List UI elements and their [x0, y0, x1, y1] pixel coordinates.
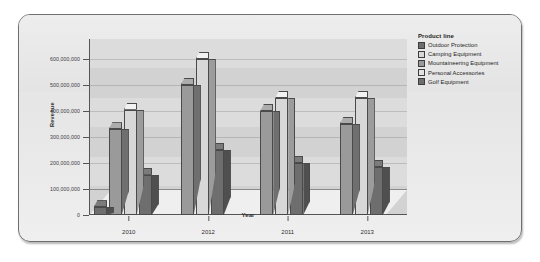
y-axis-tick — [83, 85, 89, 86]
legend-item[interactable]: Personal Accessories — [418, 69, 522, 76]
x-axis-category-label: 2010 — [122, 229, 135, 235]
chart-frame: 0100,000,000200,000,000300,000,000400,00… — [18, 14, 522, 242]
legend-item[interactable]: Outdoor Protection — [418, 42, 522, 49]
plot-area: 0100,000,000200,000,000300,000,000400,00… — [89, 39, 407, 215]
x-axis-category: 2010 — [122, 229, 135, 235]
bar[interactable] — [260, 111, 273, 215]
bar-top-face — [124, 103, 137, 110]
bar-group — [94, 39, 152, 215]
legend-swatch-icon — [418, 60, 425, 67]
x-axis-category: 2013 — [361, 229, 374, 235]
bar-front-face — [94, 207, 107, 215]
legend-swatch-icon — [418, 42, 425, 49]
bar-top-face — [275, 91, 288, 98]
bar-top-face — [109, 122, 122, 129]
y-axis-tick-label: 100,000,000 — [50, 186, 80, 192]
bar[interactable] — [94, 207, 107, 215]
legend: Product line Outdoor ProtectionCamping E… — [418, 33, 522, 87]
y-axis-tick — [83, 163, 89, 164]
y-axis-tick-label: 200,000,000 — [50, 160, 80, 166]
y-axis-title: Revenue — [49, 102, 55, 127]
x-axis-category-label: 2011 — [281, 229, 294, 235]
y-axis-tick — [83, 59, 89, 60]
y-axis-tick-label: 500,000,000 — [50, 82, 80, 88]
chart-screenshot: 0100,000,000200,000,000300,000,000400,00… — [0, 0, 540, 262]
bar-front-face — [340, 124, 353, 215]
bar-top-face — [355, 91, 368, 98]
bar-top-face — [181, 78, 194, 85]
bar-top-face — [94, 200, 107, 207]
x-axis-category: 2011 — [281, 229, 294, 235]
legend-title: Product line — [418, 33, 522, 39]
legend-item[interactable]: Mountaineering Equipment — [418, 60, 522, 67]
bar[interactable] — [181, 85, 194, 215]
y-axis-tick-label: 600,000,000 — [50, 56, 80, 62]
legend-item-label: Outdoor Protection — [428, 42, 478, 48]
bar-front-face — [181, 85, 194, 215]
bar-group — [340, 39, 383, 215]
legend-swatch-icon — [418, 78, 425, 85]
y-axis-tick-label: 0 — [77, 212, 80, 218]
x-axis-category-label: 2013 — [361, 229, 374, 235]
bar-group — [260, 39, 303, 215]
legend-item[interactable]: Golf Equipment — [418, 78, 522, 85]
bar-top-face — [340, 117, 353, 124]
y-axis-tick — [83, 189, 89, 190]
legend-item[interactable]: Camping Equipment — [418, 51, 522, 58]
legend-item-label: Camping Equipment — [428, 51, 481, 57]
bar[interactable] — [109, 129, 122, 215]
x-axis-category: 2012 — [202, 229, 215, 235]
legend-swatch-icon — [418, 69, 425, 76]
bar-group — [181, 39, 224, 215]
legend-item-label: Mountaineering Equipment — [428, 60, 499, 66]
legend-item-label: Golf Equipment — [428, 79, 469, 85]
y-axis-tick-label: 300,000,000 — [50, 134, 80, 140]
bar[interactable] — [340, 124, 353, 215]
x-axis-category-label: 2012 — [202, 229, 215, 235]
legend-swatch-icon — [418, 51, 425, 58]
legend-item-label: Personal Accessories — [428, 70, 484, 76]
bar-top-face — [260, 104, 273, 111]
y-axis-tick — [83, 111, 89, 112]
y-axis-line — [89, 39, 90, 215]
bar-top-face — [196, 52, 209, 59]
legend-items: Outdoor ProtectionCamping EquipmentMount… — [418, 42, 522, 85]
bar-front-face — [260, 111, 273, 215]
bar-front-face — [109, 129, 122, 215]
y-axis-tick — [83, 137, 89, 138]
